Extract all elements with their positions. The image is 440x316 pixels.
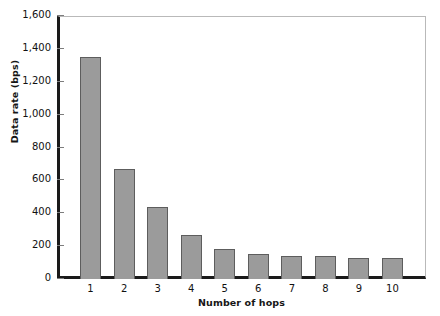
y-tick-label: 1,000 bbox=[0, 108, 51, 119]
bar bbox=[248, 254, 269, 279]
bar-chart: Data rate (bps) 02004006008001,0001,2001… bbox=[0, 0, 440, 316]
x-tick-label: 2 bbox=[106, 283, 142, 294]
y-tick-label: 800 bbox=[0, 141, 51, 152]
bar bbox=[214, 249, 235, 279]
y-tick-label: 1,600 bbox=[0, 9, 51, 20]
x-tick-label: 6 bbox=[240, 283, 276, 294]
x-tick-label: 5 bbox=[207, 283, 243, 294]
x-axis-title: Number of hops bbox=[57, 297, 426, 308]
y-tick-mark bbox=[57, 15, 64, 16]
bar bbox=[348, 258, 369, 279]
bar bbox=[147, 207, 168, 279]
bar bbox=[181, 235, 202, 279]
y-tick-mark bbox=[57, 212, 64, 213]
y-tick-mark bbox=[57, 245, 64, 246]
x-tick-label: 4 bbox=[173, 283, 209, 294]
y-tick-mark bbox=[57, 147, 64, 148]
x-tick-label: 10 bbox=[374, 283, 410, 294]
bar bbox=[114, 169, 135, 279]
y-tick-mark bbox=[57, 48, 64, 49]
x-tick-label: 7 bbox=[274, 283, 310, 294]
plot-area bbox=[57, 16, 426, 279]
y-tick-label: 0 bbox=[0, 272, 51, 283]
x-tick-label: 9 bbox=[341, 283, 377, 294]
y-tick-label: 600 bbox=[0, 173, 51, 184]
y-tick-mark bbox=[57, 179, 64, 180]
bar bbox=[382, 258, 403, 279]
y-tick-label: 1,400 bbox=[0, 42, 51, 53]
bar bbox=[281, 256, 302, 279]
y-tick-label: 1,200 bbox=[0, 75, 51, 86]
y-tick-mark bbox=[57, 114, 64, 115]
y-tick-mark bbox=[57, 81, 64, 82]
x-tick-label: 1 bbox=[73, 283, 109, 294]
bar bbox=[315, 256, 336, 279]
bar bbox=[80, 57, 101, 279]
y-tick-label: 200 bbox=[0, 239, 51, 250]
x-tick-label: 3 bbox=[140, 283, 176, 294]
x-tick-label: 8 bbox=[307, 283, 343, 294]
y-tick-mark bbox=[57, 278, 64, 279]
y-tick-label: 400 bbox=[0, 206, 51, 217]
